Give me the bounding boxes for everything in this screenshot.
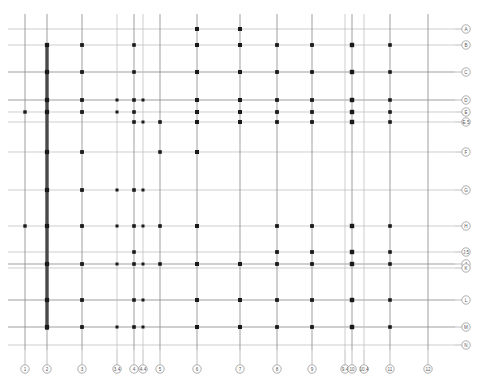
column-marker: [142, 326, 145, 329]
column-marker: [142, 299, 145, 302]
column-marker: [275, 325, 279, 329]
grid-bubble-label-3.4: 3.4: [114, 367, 121, 372]
grid-bubble-label-E.5: E.5: [463, 120, 470, 125]
column-marker: [310, 325, 314, 329]
column-marker: [158, 150, 162, 154]
column-marker: [275, 70, 279, 74]
column-marker: [310, 110, 314, 114]
column-marker: [238, 262, 242, 266]
column-marker: [350, 325, 354, 329]
column-marker: [132, 70, 136, 74]
column-marker: [142, 263, 145, 266]
column-marker: [350, 98, 354, 102]
column-marker: [195, 224, 199, 228]
column-marker: [132, 325, 136, 329]
column-marker: [116, 99, 119, 102]
column-marker: [132, 250, 136, 254]
column-marker: [116, 111, 119, 114]
grid-bubble-label-H: H: [464, 224, 467, 229]
column-marker: [388, 298, 392, 302]
column-marker: [275, 43, 279, 47]
column-marker: [310, 250, 314, 254]
column-marker: [388, 224, 392, 228]
column-marker: [158, 120, 162, 124]
column-marker: [45, 70, 49, 74]
column-marker: [195, 43, 199, 47]
column-marker: [275, 120, 279, 124]
grid-bubble-label-G: G: [464, 188, 468, 193]
column-marker: [350, 110, 354, 114]
column-marker: [238, 110, 242, 114]
column-marker: [350, 262, 354, 266]
drawing-sheet: ABCDEE.5FGHJ.5JKLMN1233.444.4567899.4101…: [0, 0, 480, 385]
column-marker: [195, 262, 199, 266]
column-marker: [350, 120, 354, 124]
grid-bubble-label-12: 12: [425, 367, 431, 372]
grid-bubble-label-M: M: [464, 325, 468, 330]
column-marker: [238, 70, 242, 74]
grid-bubble-label-8: 8: [276, 367, 279, 372]
structural-grid-plan: ABCDEE.5FGHJ.5JKLMN1233.444.4567899.4101…: [0, 0, 480, 385]
column-marker: [80, 224, 84, 228]
column-marker: [388, 110, 392, 114]
column-marker: [45, 43, 49, 47]
column-marker: [23, 224, 26, 227]
column-marker: [158, 224, 162, 228]
grid-bubble-label-6: 6: [196, 367, 199, 372]
column-marker: [195, 70, 199, 74]
column-marker: [310, 224, 314, 228]
column-marker: [116, 326, 119, 329]
column-marker: [195, 27, 199, 31]
column-marker: [350, 70, 354, 74]
column-marker: [388, 325, 392, 329]
column-marker: [195, 150, 199, 154]
column-marker: [388, 120, 392, 124]
grid-bubble-label-1: 1: [24, 367, 27, 372]
column-marker: [45, 224, 49, 228]
grid-bubble-label-4.4: 4.4: [140, 367, 147, 372]
column-marker: [275, 298, 279, 302]
column-marker: [116, 263, 119, 266]
column-marker: [132, 262, 136, 266]
column-marker: [116, 225, 119, 228]
column-marker: [195, 98, 199, 102]
column-marker: [80, 325, 84, 329]
column-marker: [275, 224, 279, 228]
column-marker: [275, 110, 279, 114]
column-marker: [142, 189, 145, 192]
column-marker: [132, 110, 136, 114]
column-marker: [80, 43, 84, 47]
grid-bubble-label-L: L: [465, 298, 468, 303]
column-marker: [310, 120, 314, 124]
grid-bubble-label-9: 9: [311, 367, 314, 372]
column-marker: [132, 188, 136, 192]
column-marker: [350, 250, 354, 254]
column-marker: [80, 188, 84, 192]
grid-bubble-label-4: 4: [133, 367, 136, 372]
column-marker: [45, 262, 49, 266]
column-marker: [80, 98, 84, 102]
column-marker: [238, 298, 242, 302]
column-marker: [238, 120, 242, 124]
column-marker: [45, 188, 49, 192]
column-marker: [275, 250, 279, 254]
column-marker: [80, 110, 84, 114]
grid-bubble-label-5: 5: [159, 367, 162, 372]
column-marker: [80, 262, 84, 266]
column-marker: [238, 43, 242, 47]
column-marker: [350, 298, 354, 302]
grid-bubble-label-3: 3: [81, 367, 84, 372]
grid-bubble-label-11: 11: [388, 367, 393, 372]
column-marker: [142, 121, 145, 124]
column-marker: [238, 27, 242, 31]
grid-bubble-label-B: B: [464, 43, 467, 48]
grid-bubble-label-2: 2: [46, 367, 49, 372]
column-marker: [132, 120, 136, 124]
column-marker: [45, 325, 49, 329]
column-marker: [45, 150, 49, 154]
column-marker: [45, 110, 49, 114]
column-marker: [195, 120, 199, 124]
column-marker: [142, 225, 145, 228]
column-marker: [195, 110, 199, 114]
column-marker: [45, 98, 49, 102]
